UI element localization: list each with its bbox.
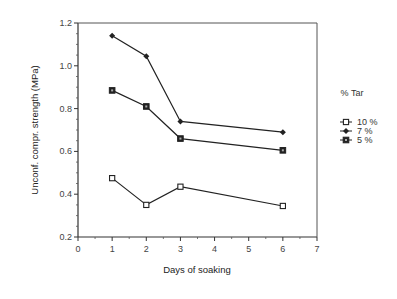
legend-title: % Tar bbox=[341, 88, 364, 98]
y-tick-label: 1.2 bbox=[59, 18, 72, 28]
data-point bbox=[109, 33, 115, 39]
x-tick-label: 3 bbox=[178, 244, 183, 254]
legend-marker bbox=[343, 137, 349, 143]
legend-marker-inner bbox=[345, 139, 347, 141]
data-point bbox=[280, 203, 285, 208]
legend-label: 5 % bbox=[357, 135, 373, 145]
series-line bbox=[112, 90, 283, 150]
x-tick-label: 7 bbox=[314, 244, 319, 254]
x-tick-label: 0 bbox=[75, 244, 80, 254]
y-tick-label: 1.0 bbox=[59, 61, 72, 71]
y-tick-label: 0.2 bbox=[59, 232, 72, 242]
data-point bbox=[143, 104, 149, 110]
y-axis-title: Unconf. compr. strength (MPa) bbox=[29, 65, 40, 194]
x-tick-label: 2 bbox=[144, 244, 149, 254]
series-line bbox=[112, 36, 283, 132]
legend-entry: 5 % bbox=[340, 135, 373, 145]
data-point bbox=[280, 129, 286, 135]
data-point bbox=[109, 88, 115, 94]
series-10-pct bbox=[110, 176, 286, 209]
data-point bbox=[144, 202, 149, 207]
data-point-inner bbox=[282, 149, 284, 151]
series-group bbox=[109, 33, 286, 209]
x-tick-label: 5 bbox=[246, 244, 251, 254]
y-tick-label: 0.6 bbox=[59, 146, 72, 156]
data-point bbox=[280, 148, 286, 154]
x-tick-label: 1 bbox=[110, 244, 115, 254]
x-tick-label: 6 bbox=[280, 244, 285, 254]
legend: % Tar 10 %7 %5 % bbox=[340, 88, 378, 145]
x-axis-title: Days of soaking bbox=[163, 264, 231, 275]
data-point-inner bbox=[179, 138, 181, 140]
data-point bbox=[178, 184, 183, 189]
data-point bbox=[177, 118, 183, 124]
data-point bbox=[143, 53, 149, 59]
data-point-inner bbox=[111, 89, 113, 91]
legend-marker bbox=[343, 119, 348, 124]
chart: 0.20.40.60.81.01.201234567 Days of soaki… bbox=[0, 0, 397, 299]
data-point bbox=[110, 176, 115, 181]
legend-marker bbox=[343, 128, 349, 134]
data-point-inner bbox=[145, 105, 147, 107]
x-tick-label: 4 bbox=[212, 244, 217, 254]
series-line bbox=[112, 178, 283, 206]
data-point bbox=[178, 136, 184, 142]
y-tick-label: 0.4 bbox=[59, 189, 72, 199]
ticks: 0.20.40.60.81.01.201234567 bbox=[59, 18, 319, 254]
series-7-pct bbox=[109, 33, 286, 135]
series-5-pct bbox=[109, 88, 285, 154]
y-tick-label: 0.8 bbox=[59, 104, 72, 114]
